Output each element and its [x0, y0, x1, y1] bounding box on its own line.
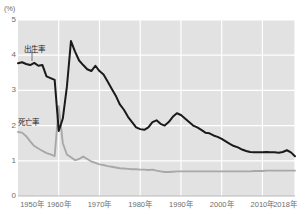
birth-death-rate-chart: (%) 543210 1950年1960年1970年1980年1990年2000… [0, 0, 306, 214]
series-label-death-rate: 死亡率 [18, 116, 38, 127]
plot-area [0, 0, 306, 214]
series-label-birth-rate: 出生率 [24, 43, 44, 54]
